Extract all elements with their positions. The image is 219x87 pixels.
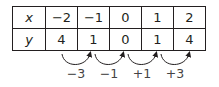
- difference-label: +1: [127, 66, 157, 81]
- arc-arrow-icon: [62, 54, 90, 65]
- difference-label: −1: [94, 66, 124, 81]
- arc-arrow-icon: [95, 54, 123, 65]
- arc-arrow-icon: [128, 54, 156, 65]
- arc-arrow-icon: [161, 54, 189, 65]
- difference-label: +3: [160, 66, 190, 81]
- difference-label: −3: [61, 66, 91, 81]
